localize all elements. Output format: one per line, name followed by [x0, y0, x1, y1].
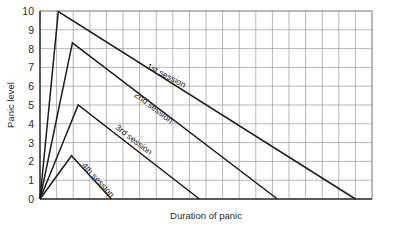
y-tick-1: 1 [28, 174, 34, 186]
y-tick-3: 3 [28, 137, 34, 149]
panic-level-chart: 10 9 8 7 6 5 4 3 2 1 0 Panic level Durat… [0, 0, 393, 230]
y-tick-9: 9 [28, 24, 34, 36]
series-3rd-session [40, 105, 199, 199]
chart-canvas: 10 9 8 7 6 5 4 3 2 1 0 Panic level Durat… [0, 0, 393, 230]
series-label-2nd-session: 2nd session [133, 90, 176, 126]
y-tick-4: 4 [28, 118, 34, 130]
x-axis-title: Duration of panic [170, 210, 242, 221]
y-tick-5: 5 [28, 99, 34, 111]
y-tick-10: 10 [22, 5, 34, 17]
y-tick-6: 6 [28, 80, 34, 92]
y-tick-8: 8 [28, 43, 34, 55]
series-label-3rd-session: 3rd session [113, 122, 154, 157]
series-label-1st-session: 1st session [145, 61, 188, 90]
y-axis-title: Panic level [5, 82, 16, 128]
y-tick-2: 2 [28, 155, 34, 167]
y-tick-7: 7 [28, 61, 34, 73]
y-axis-tick-labels: 10 9 8 7 6 5 4 3 2 1 0 [22, 5, 34, 205]
y-tick-0: 0 [28, 193, 34, 205]
